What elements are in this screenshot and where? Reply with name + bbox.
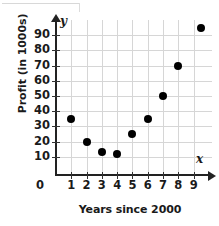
gridline-vertical bbox=[148, 20, 149, 172]
y-tick-label: 40 bbox=[26, 105, 50, 117]
y-tick-mark bbox=[52, 96, 60, 97]
data-point bbox=[67, 115, 75, 123]
plot-area bbox=[56, 20, 212, 172]
gridline-horizontal bbox=[56, 96, 212, 97]
y-tick-label: 30 bbox=[26, 120, 50, 132]
y-tick-mark bbox=[52, 126, 60, 127]
x-tick-mark bbox=[148, 172, 149, 179]
gridline-horizontal bbox=[56, 142, 212, 143]
y-tick-mark bbox=[52, 111, 60, 112]
y-tick-mark bbox=[52, 35, 60, 36]
y-axis-line bbox=[55, 21, 57, 176]
x-tick-label: 5 bbox=[124, 180, 140, 192]
data-point bbox=[174, 62, 182, 70]
y-tick-mark bbox=[52, 157, 60, 158]
y-tick-label: 10 bbox=[26, 151, 50, 163]
gridline-horizontal bbox=[56, 81, 212, 82]
y-axis-variable-label: y bbox=[60, 14, 67, 28]
x-tick-label: 8 bbox=[170, 180, 186, 192]
gridline-horizontal bbox=[56, 66, 212, 67]
y-tick-label: 90 bbox=[26, 29, 50, 41]
x-axis-title: Years since 2000 bbox=[46, 203, 214, 216]
x-tick-label: 6 bbox=[140, 180, 156, 192]
gridline-horizontal bbox=[56, 50, 212, 51]
x-tick-mark bbox=[102, 172, 103, 179]
x-tick-mark bbox=[71, 172, 72, 179]
y-tick-label: 80 bbox=[26, 44, 50, 56]
y-tick-mark bbox=[52, 66, 60, 67]
data-point bbox=[128, 130, 136, 138]
x-tick-label: 9 bbox=[186, 180, 202, 192]
y-tick-label: 50 bbox=[26, 90, 50, 102]
x-tick-mark bbox=[178, 172, 179, 179]
data-point bbox=[83, 138, 91, 146]
y-tick-label-group: 102030405060708090 bbox=[24, 0, 50, 226]
gridline-horizontal bbox=[56, 111, 212, 112]
gridline-vertical bbox=[87, 20, 88, 172]
x-tick-label: 3 bbox=[94, 180, 110, 192]
data-point bbox=[98, 148, 106, 156]
x-tick-mark bbox=[132, 172, 133, 179]
origin-label: 0 bbox=[36, 180, 44, 192]
data-point bbox=[159, 92, 167, 100]
x-tick-label: 4 bbox=[109, 180, 125, 192]
y-tick-mark bbox=[52, 81, 60, 82]
x-tick-label: 1 bbox=[63, 180, 79, 192]
gridline-vertical bbox=[71, 20, 72, 172]
y-tick-label: 20 bbox=[26, 136, 50, 148]
y-tick-mark bbox=[52, 50, 60, 51]
gridline-horizontal bbox=[56, 35, 212, 36]
x-axis-variable-label: x bbox=[196, 152, 203, 166]
data-point bbox=[197, 24, 205, 32]
x-tick-label: 7 bbox=[155, 180, 171, 192]
data-point bbox=[144, 115, 152, 123]
x-tick-mark bbox=[163, 172, 164, 179]
y-tick-label: 60 bbox=[26, 75, 50, 87]
y-tick-label: 70 bbox=[26, 60, 50, 72]
x-tick-mark bbox=[87, 172, 88, 179]
x-tick-mark bbox=[194, 172, 195, 179]
data-point bbox=[113, 150, 121, 158]
x-tick-mark bbox=[117, 172, 118, 179]
scatter-plot-figure: Profit (in 1000s) Years since 2000 y x 1… bbox=[0, 0, 219, 226]
gridline-vertical bbox=[178, 20, 179, 172]
gridline-horizontal bbox=[56, 126, 212, 127]
y-tick-mark bbox=[52, 142, 60, 143]
gridline-vertical bbox=[194, 20, 195, 172]
x-tick-label: 2 bbox=[79, 180, 95, 192]
gridline-vertical bbox=[132, 20, 133, 172]
x-axis-arrow-icon bbox=[208, 171, 216, 181]
gridline-horizontal bbox=[56, 157, 212, 158]
